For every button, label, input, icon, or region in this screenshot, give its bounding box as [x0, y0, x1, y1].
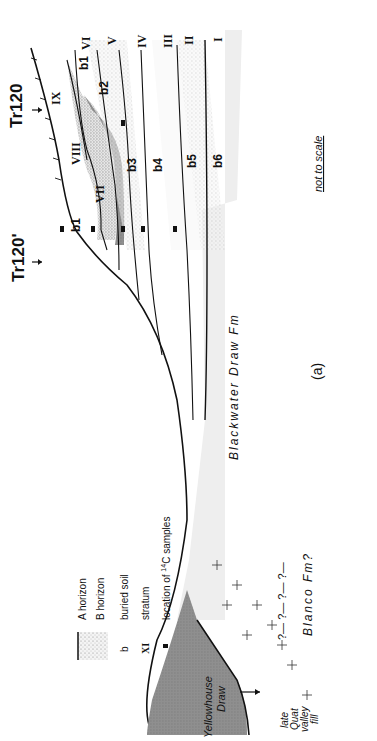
- legend-stratum-symbol: XI: [140, 643, 151, 654]
- stratum-label-I: I: [211, 37, 225, 42]
- terrace-strata: [37, 40, 225, 250]
- legend-a-horizon-label: A horizon: [77, 578, 88, 620]
- formation-label-blackwater: Blackwater Draw Fm: [227, 313, 241, 460]
- soil-label-b6: b6: [211, 154, 225, 168]
- stratum-label-VII: VII: [93, 185, 107, 203]
- soil-label-b2: b2: [97, 81, 111, 95]
- legend-b-horizon-label: B horizon: [95, 578, 106, 620]
- legend-c14-symbol: [163, 644, 168, 648]
- scale-note: not to scale: [312, 136, 324, 192]
- soil-label-b4: b4: [151, 158, 165, 172]
- stratum-label-IV: IV: [135, 34, 149, 48]
- soil-label-b3: b3: [125, 158, 139, 172]
- legend-stratum-label: stratum: [140, 587, 151, 620]
- soil-label-b5: b5: [185, 154, 199, 168]
- stratum-label-VIII: VIII: [69, 142, 83, 165]
- valley-fill-label-line4: fill: [309, 714, 320, 724]
- panel-label: (a): [309, 363, 325, 380]
- soil-label-b1-upper: b1: [77, 56, 91, 70]
- stratum-label-II: II: [182, 35, 196, 45]
- yellowhouse-draw-label-line2: Draw: [215, 685, 227, 712]
- stratum-label-III: III: [161, 34, 175, 48]
- uncertain-contact-marks: ?— ?— ?— ?—: [276, 562, 288, 640]
- stratum-label-VI: VI: [79, 36, 93, 50]
- cross-section-diagram: Tr120 Tr120' IX VIII VII VI V IV III II …: [0, 0, 377, 741]
- soil-label-b1-lower: b1: [69, 218, 83, 232]
- formation-label-blanco: Blanco Fm?: [301, 552, 315, 636]
- legend-b-symbol: b: [119, 646, 130, 652]
- stratum-label-IX: IX: [49, 91, 63, 105]
- yellowhouse-draw-label-line1: Yellowhouse: [202, 676, 214, 738]
- legend-c14-label: location of 14C samples: [160, 517, 172, 620]
- section-label-tr120-prime: Tr120': [9, 234, 28, 282]
- section-label-tr120: Tr120: [7, 84, 26, 128]
- stratum-label-V: V: [105, 36, 119, 45]
- legend-a-horizon-symbol: [78, 632, 108, 660]
- legend-buried-soil-label: buried soil: [119, 574, 130, 620]
